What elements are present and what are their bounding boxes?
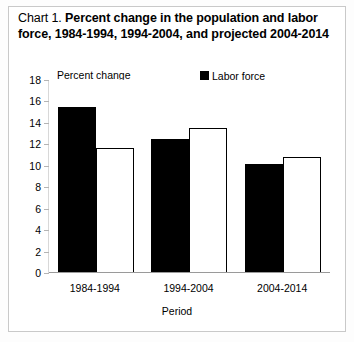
bar-civilian-population [189, 128, 227, 273]
y-tick-label: 0 [21, 267, 41, 279]
y-tick-label: 8 [21, 181, 41, 193]
chart-title: Chart 1. Percent change in the populatio… [18, 10, 338, 42]
x-axis-title: Period [0, 305, 354, 317]
bar-group [143, 80, 237, 273]
chart-title-main: Percent change in the population and lab… [18, 11, 329, 41]
y-tick-label: 14 [21, 117, 41, 129]
bar-labor-force [245, 164, 283, 273]
y-tick-label: 2 [21, 246, 41, 258]
x-category-label: 2004-2014 [257, 282, 307, 294]
chart-title-line-3: 2004-2014 [270, 27, 329, 41]
x-category-label: 1994-2004 [163, 282, 213, 294]
bar-group [49, 80, 143, 273]
x-axis-baseline [49, 272, 330, 273]
chart-title-prefix: Chart 1. [18, 11, 62, 25]
chart-title-line-1: Percent change in the population and [65, 11, 284, 25]
legend-swatch-filled-square-icon [200, 71, 209, 80]
chart-figure: Chart 1. Percent change in the populatio… [0, 0, 354, 342]
plot-area: 024681012141618 [48, 80, 330, 273]
bar-group [236, 80, 330, 273]
bar-labor-force [151, 139, 189, 273]
y-tick-label: 12 [21, 138, 41, 150]
y-tick-label: 16 [21, 95, 41, 107]
y-tick-label: 18 [21, 74, 41, 86]
x-category-label: 1984-1994 [70, 282, 120, 294]
bar-civilian-population [283, 157, 321, 273]
y-tick-label: 6 [21, 203, 41, 215]
bar-labor-force [58, 107, 96, 273]
bar-groups [49, 80, 330, 273]
bar-civilian-population [96, 148, 134, 273]
y-tick-mark [44, 273, 49, 274]
y-tick-label: 10 [21, 160, 41, 172]
y-tick-label: 4 [21, 224, 41, 236]
